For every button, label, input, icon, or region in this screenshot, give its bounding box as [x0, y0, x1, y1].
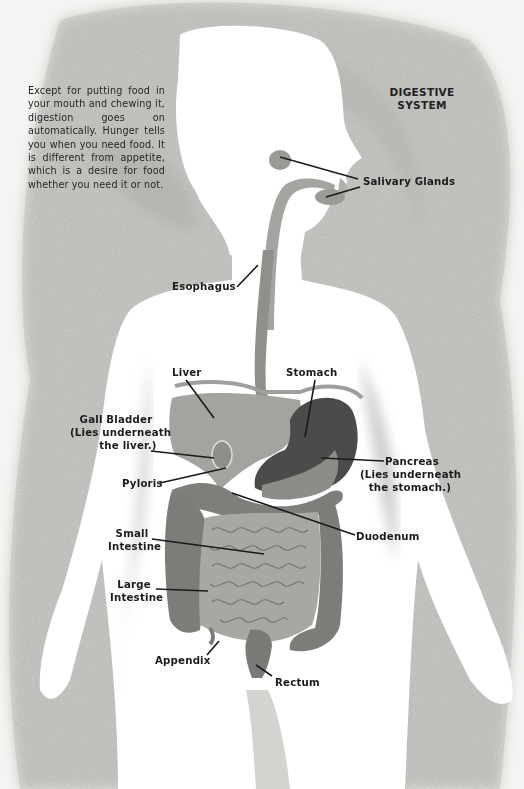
label-gall-bladder: Gall Bladder (Lies underneath the liver.…	[70, 413, 162, 453]
pancreas-line-3: the stomach.)	[360, 481, 460, 494]
digestive-system-diagram: Except for putting food in your mouth an…	[0, 0, 524, 789]
label-esophagus: Esophagus	[172, 280, 236, 293]
diagram-title: DIGESTIVE SYSTEM	[380, 86, 464, 112]
gall-bladder-line-2: (Lies underneath	[70, 426, 162, 439]
large-intestine-line-1: Large	[110, 578, 158, 591]
label-salivary-glands: Salivary Glands	[363, 175, 455, 188]
gall-bladder-line-3: the liver.)	[70, 439, 162, 452]
ascending-colon	[165, 490, 205, 633]
label-liver: Liver	[172, 366, 202, 379]
label-pyloris: Pyloris	[122, 477, 163, 490]
label-appendix: Appendix	[155, 654, 211, 667]
label-rectum: Rectum	[275, 676, 320, 689]
title-line-2: SYSTEM	[380, 99, 464, 112]
label-stomach: Stomach	[286, 366, 337, 379]
gall-bladder	[212, 441, 232, 469]
label-small-intestine: Small Intestine	[108, 527, 156, 553]
label-large-intestine: Large Intestine	[110, 578, 158, 604]
large-intestine-line-2: Intestine	[110, 591, 158, 604]
small-intestine-line-1: Small	[108, 527, 156, 540]
label-duodenum: Duodenum	[356, 530, 420, 543]
small-intestine	[199, 512, 320, 642]
intro-paragraph: Except for putting food in your mouth an…	[28, 84, 165, 191]
pancreas-line-1: Pancreas	[360, 455, 460, 468]
title-line-1: DIGESTIVE	[380, 86, 464, 99]
gall-bladder-line-1: Gall Bladder	[70, 413, 162, 426]
label-pancreas: Pancreas (Lies underneath the stomach.)	[360, 455, 460, 495]
small-intestine-line-2: Intestine	[108, 540, 156, 553]
pancreas-line-2: (Lies underneath	[360, 468, 460, 481]
